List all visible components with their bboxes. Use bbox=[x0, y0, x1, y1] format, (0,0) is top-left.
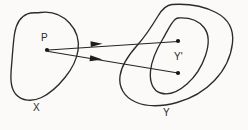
point-p-dot bbox=[45, 48, 49, 52]
arrow-lower-shaft bbox=[49, 52, 179, 74]
point-y1-dot bbox=[176, 39, 180, 43]
set-mapping-figure: P X Y' Y bbox=[0, 0, 248, 130]
point-y2-dot bbox=[176, 71, 180, 75]
label-subset-y-prime: Y' bbox=[174, 52, 183, 62]
set-x-outline bbox=[11, 12, 78, 100]
label-set-x: X bbox=[33, 103, 40, 113]
label-point-p: P bbox=[41, 33, 48, 43]
label-set-y: Y bbox=[163, 108, 170, 118]
